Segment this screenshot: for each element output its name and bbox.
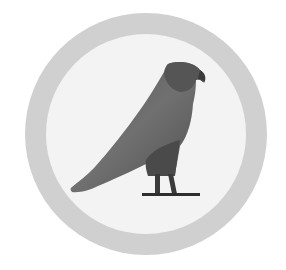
perch-line <box>142 193 200 196</box>
falcon-leg-left <box>155 174 160 194</box>
falcon-emblem <box>0 0 286 270</box>
canvas <box>0 0 286 270</box>
